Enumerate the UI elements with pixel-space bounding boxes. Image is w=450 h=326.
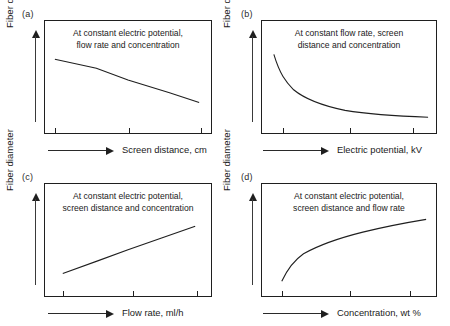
panel-b-curve: [262, 21, 436, 133]
tick-mark: [197, 291, 198, 296]
panel-b-tag: (b): [241, 9, 253, 19]
panel-d: (d) Fiber diameter At constant electric …: [225, 163, 450, 326]
tick-mark: [283, 128, 284, 133]
panel-b-y-axis-label: Fiber diameter: [221, 0, 232, 28]
tick-mark: [133, 291, 134, 296]
arrow-right-icon: [106, 310, 114, 318]
panel-c-plot-area: At constant electric potential, screen d…: [44, 183, 212, 297]
tick-mark: [410, 291, 411, 296]
panel-c-y-axis-arrow: [30, 193, 42, 285]
arrow-right-icon: [106, 147, 114, 155]
panel-d-y-axis-arrow: [247, 193, 259, 285]
panel-a-x-axis-arrow: [48, 146, 114, 155]
arrow-right-icon: [321, 310, 329, 318]
panel-a-y-axis-label: Fiber diameter: [4, 0, 15, 28]
arrow-right-icon: [321, 147, 329, 155]
panel-d-x-axis-label: Concentration, wt %: [337, 307, 421, 318]
tick-mark: [55, 128, 56, 133]
y-axis-line: [35, 199, 36, 285]
panel-c: (c) Fiber diameter At constant electric …: [0, 163, 225, 326]
panel-d-y-axis-label: Fiber diameter: [221, 81, 232, 191]
panel-b-x-axis-arrow: [263, 146, 329, 155]
x-axis-line: [48, 313, 107, 314]
panel-a-curve: [45, 21, 211, 133]
tick-mark: [63, 291, 64, 296]
tick-mark: [282, 291, 283, 296]
panel-b-x-axis-label: Electric potential, kV: [337, 144, 422, 155]
panel-a-plot-area: At constant electric potential, flow rat…: [44, 20, 212, 134]
tick-mark: [350, 291, 351, 296]
tick-mark: [201, 128, 202, 133]
y-axis-line: [35, 36, 36, 122]
panel-d-x-axis-arrow: [263, 309, 329, 318]
panel-c-y-axis-label: Fiber diameter: [4, 81, 15, 191]
panel-a-y-axis-arrow: [30, 30, 42, 122]
tick-mark: [350, 128, 351, 133]
panel-b-plot-area: At constant flow rate, screen distance a…: [261, 20, 437, 134]
panel-c-tag: (c): [22, 172, 33, 182]
panel-d-curve: [262, 184, 436, 296]
panel-a: (a) Fiber diameter At constant electric …: [0, 0, 225, 163]
tick-mark: [413, 128, 414, 133]
panel-b: (b) Fiber diameter At constant flow rate…: [225, 0, 450, 163]
panel-a-x-axis-label: Screen distance, cm: [122, 144, 207, 155]
panel-a-tag: (a): [22, 9, 34, 19]
x-axis-line: [48, 150, 107, 151]
panel-d-plot-area: At constant electric potential, screen d…: [261, 183, 437, 297]
x-axis-line: [263, 313, 322, 314]
four-panel-figure: (a) Fiber diameter At constant electric …: [0, 0, 450, 326]
tick-mark: [129, 128, 130, 133]
panel-c-x-axis-arrow: [48, 309, 114, 318]
panel-b-y-axis-arrow: [247, 30, 259, 122]
x-axis-line: [263, 150, 322, 151]
y-axis-line: [252, 199, 253, 285]
panel-c-curve: [45, 184, 211, 296]
panel-c-x-axis-label: Flow rate, ml/h: [122, 307, 183, 318]
panel-d-tag: (d): [241, 172, 253, 182]
y-axis-line: [252, 36, 253, 122]
